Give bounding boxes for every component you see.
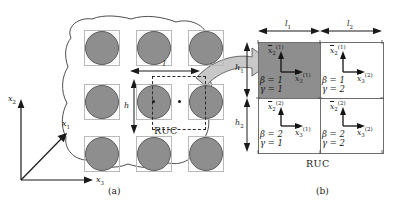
panel-b-vector-layer [232, 0, 394, 209]
axis-label-b1-g1-horizontal: x3(1) [295, 73, 311, 85]
fiber-circle [85, 85, 119, 119]
index-pair-b1-g2: β = 1 γ = 2 [322, 76, 345, 94]
panel-a: l h RUC x2 x1 x3 (a) [0, 0, 232, 209]
dimension-h2-arrow-bottom [244, 143, 250, 152]
dimension-label-l2: l2 [347, 20, 353, 30]
dimension-label-h1: h1 [235, 64, 244, 74]
gamma-label: γ = 2 [322, 139, 345, 148]
global-axis-label-x3: x3 [96, 176, 104, 186]
index-pair-b2-g1: β = 2 γ = 1 [260, 130, 283, 148]
ruc-center-dot [152, 100, 155, 103]
axis-label-b2-g1-vertical: x2(2) [268, 101, 284, 113]
axis-arrow-x3 [84, 177, 93, 184]
dimension-l2-arrow-left [320, 28, 329, 34]
panel-b: l1 l2 h1 h2 x2(1) x3(1) x2(1) x3(2) x2(2… [232, 0, 394, 209]
caption-a: (a) [108, 186, 120, 196]
dimension-l1-arrow-left [258, 28, 267, 34]
ruc-text-label: RUC [306, 158, 330, 169]
dimension-label-h: h [124, 102, 129, 110]
global-axis-label-x2: x2 [8, 95, 16, 105]
dimension-label-l: l [163, 60, 166, 68]
index-pair-b2-g2: β = 2 γ = 2 [322, 130, 345, 148]
fiber-circle [85, 31, 119, 65]
caption-b: (b) [316, 186, 329, 196]
dimension-label-l1: l1 [285, 20, 291, 30]
fiber-circle [85, 137, 119, 171]
axis-label-b1-g2-horizontal: x3(2) [357, 73, 373, 85]
axis-arrow-x2 [18, 99, 25, 108]
dimension-l1-arrow-right [311, 28, 320, 34]
axis-label-b1-g1-vertical: x2(1) [268, 45, 284, 57]
gamma-label: γ = 1 [260, 85, 283, 94]
ruc-text-label: RUC [154, 125, 178, 136]
axis-label-b2-g2-vertical: x2(2) [330, 101, 346, 113]
index-pair-b1-g1: β = 1 γ = 1 [260, 76, 283, 94]
dimension-label-h2: h2 [235, 119, 244, 129]
ruc-dashed-box [152, 76, 206, 130]
axis-label-b1-g2-vertical: x2(1) [330, 45, 346, 57]
fiber-circle [189, 31, 223, 65]
axis-label-b2-g2-horizontal: x3(2) [357, 127, 373, 139]
fiber-circle [137, 137, 171, 171]
gamma-label: γ = 2 [322, 85, 345, 94]
dimension-h2-arrow-top [244, 98, 250, 107]
gamma-label: γ = 1 [260, 139, 283, 148]
axis-label-b2-g1-horizontal: x3(1) [295, 127, 311, 139]
dimension-h1-arrow-bottom [244, 89, 250, 98]
dimension-l2-arrow-right [373, 28, 382, 34]
ruc-center-dot [178, 100, 181, 103]
global-axis-label-x1: x1 [62, 120, 70, 130]
dimension-h1-arrow-top [244, 42, 250, 51]
fiber-circle [189, 137, 223, 171]
figure-root: l h RUC x2 x1 x3 (a) [0, 0, 394, 209]
